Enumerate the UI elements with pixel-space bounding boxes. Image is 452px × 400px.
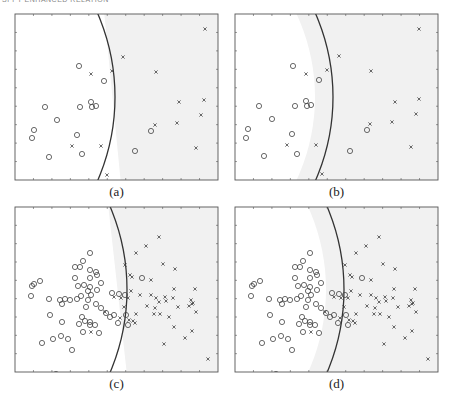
scatter-panel-a bbox=[15, 14, 218, 180]
scatter-plot bbox=[15, 14, 218, 180]
panel-label: (b) bbox=[307, 184, 367, 200]
scatter-plot bbox=[15, 207, 218, 372]
scatter-panel-b bbox=[235, 14, 438, 180]
shaded-region bbox=[104, 14, 218, 180]
scatter-plot bbox=[235, 14, 438, 180]
scatter-panel-c bbox=[15, 207, 218, 372]
scatter-plot bbox=[235, 207, 438, 372]
cross-marker bbox=[392, 379, 395, 382]
cross-marker bbox=[172, 379, 175, 382]
header-text: SPPT ENHANCED RELATION bbox=[2, 0, 109, 3]
cross-marker bbox=[445, 111, 448, 114]
panel-label: (c) bbox=[87, 376, 147, 392]
shaded-region bbox=[108, 207, 218, 372]
cross-marker bbox=[230, 112, 233, 115]
scatter-panel-d bbox=[235, 207, 438, 372]
panel-label: (d) bbox=[307, 376, 367, 392]
panel-label: (a) bbox=[87, 184, 147, 200]
